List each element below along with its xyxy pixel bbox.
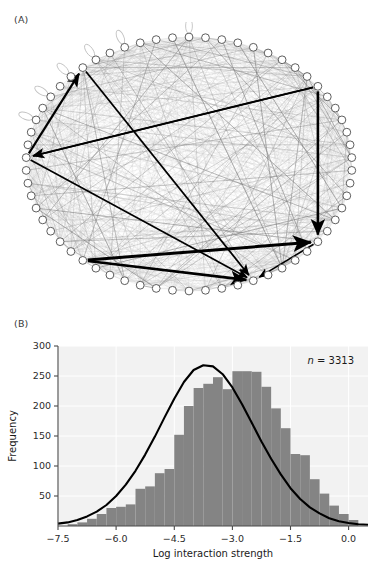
- network-node: [314, 238, 322, 246]
- histogram-bar: [310, 479, 320, 526]
- x-axis-title: Log interaction strength: [153, 548, 273, 559]
- y-tick-label: 200: [33, 400, 51, 411]
- network-node: [346, 141, 354, 149]
- network-node: [27, 192, 35, 200]
- network-node: [185, 33, 193, 41]
- y-axis-title: Frequency: [7, 410, 18, 462]
- y-tick-label: 50: [39, 490, 51, 501]
- histogram-bar: [213, 377, 223, 526]
- network-node: [39, 104, 47, 112]
- y-tick-label: 250: [33, 370, 51, 381]
- network-node: [303, 248, 311, 256]
- histogram-bar: [223, 389, 233, 526]
- network-node: [47, 93, 55, 101]
- y-axis-ticks: 50100150200250300: [33, 340, 58, 501]
- sample-size-value: = 3313: [314, 355, 354, 366]
- histogram-bar: [126, 504, 136, 526]
- network-node: [346, 179, 354, 187]
- network-node: [24, 179, 32, 187]
- x-tick-label: −1.5: [279, 533, 302, 544]
- y-tick-label: 150: [33, 430, 51, 441]
- network-node: [202, 34, 210, 42]
- x-tick-label: −7.5: [46, 533, 69, 544]
- network-node: [303, 73, 311, 81]
- network-node: [169, 286, 177, 294]
- network-node: [234, 39, 242, 47]
- network-node: [67, 248, 75, 256]
- network-node: [202, 286, 210, 294]
- histogram-bar: [329, 506, 339, 526]
- histogram-bar: [106, 508, 116, 526]
- histogram-bar: [320, 494, 330, 526]
- network-node: [338, 204, 346, 212]
- histogram-bar: [300, 455, 310, 526]
- histogram-bar: [174, 435, 184, 526]
- network-node: [264, 49, 272, 57]
- network-node: [106, 49, 114, 57]
- histogram-bar: [252, 372, 262, 526]
- y-tick-label: 100: [33, 460, 51, 471]
- figure-root: (A) (B) −7.5−6.0−4.5−3.0−1.50.0 50100150…: [0, 0, 379, 585]
- network-node: [24, 141, 32, 149]
- network-node: [32, 116, 40, 124]
- x-axis-ticks: −7.5−6.0−4.5−3.0−1.50.0: [46, 526, 356, 544]
- histogram-bar: [339, 514, 349, 526]
- panel-a-network-diagram: [0, 22, 379, 312]
- network-node: [92, 56, 100, 64]
- network-node: [79, 257, 87, 265]
- network-node: [22, 154, 30, 162]
- network-node: [264, 271, 272, 279]
- histogram-bar: [145, 486, 155, 526]
- self-loop: [186, 22, 193, 33]
- network-node: [278, 264, 286, 272]
- x-tick-label: −6.0: [105, 533, 128, 544]
- x-tick-label: 0.0: [341, 533, 356, 544]
- histogram-bar: [116, 507, 126, 526]
- x-tick-label: −3.0: [221, 533, 244, 544]
- network-node: [338, 116, 346, 124]
- network-node: [348, 167, 356, 175]
- network-node: [32, 204, 40, 212]
- network-node: [152, 285, 160, 293]
- network-node: [348, 154, 356, 162]
- network-node: [56, 82, 64, 90]
- network-node: [185, 287, 193, 295]
- network-node: [218, 36, 226, 44]
- network-node: [56, 238, 64, 246]
- network-node: [27, 128, 35, 136]
- network-node: [106, 271, 114, 279]
- network-node: [323, 93, 331, 101]
- network-svg: [0, 22, 379, 312]
- histogram-bar: [155, 473, 165, 526]
- network-node: [343, 192, 351, 200]
- histogram-bar: [136, 489, 146, 526]
- network-node: [67, 73, 75, 81]
- histogram-bar: [87, 519, 97, 526]
- network-node: [291, 64, 299, 72]
- network-node: [121, 277, 129, 285]
- network-node: [331, 104, 339, 112]
- y-tick-label: 300: [33, 340, 51, 351]
- network-node: [343, 128, 351, 136]
- histogram-bar: [184, 406, 194, 526]
- network-node: [136, 39, 144, 47]
- x-tick-label: −4.5: [163, 533, 186, 544]
- network-node: [22, 167, 30, 175]
- network-node: [331, 216, 339, 224]
- histogram-svg: −7.5−6.0−4.5−3.0−1.50.0 5010015020025030…: [0, 330, 379, 585]
- network-node: [314, 82, 322, 90]
- panel-b-histogram: −7.5−6.0−4.5−3.0−1.50.0 5010015020025030…: [0, 330, 379, 585]
- network-node: [234, 281, 242, 289]
- network-node: [152, 36, 160, 44]
- network-node: [169, 34, 177, 42]
- panel-b-label: (B): [14, 318, 29, 329]
- histogram-bar: [97, 514, 107, 526]
- network-node: [249, 43, 257, 51]
- histogram-bar: [194, 388, 204, 526]
- histogram-bar: [242, 371, 252, 526]
- network-node: [121, 43, 129, 51]
- network-node: [323, 227, 331, 235]
- self-loop: [114, 29, 126, 45]
- network-node: [79, 64, 87, 72]
- network-node: [278, 56, 286, 64]
